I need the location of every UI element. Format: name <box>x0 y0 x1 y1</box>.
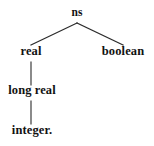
tree-edge-ns-boolean <box>77 23 123 45</box>
tree-edge-ns-real <box>31 23 77 45</box>
tree-node-boolean: boolean <box>102 45 144 58</box>
tree-node-real: real <box>21 45 42 58</box>
tree-node-integer: integer. <box>12 124 52 137</box>
tree-node-ns: ns <box>71 7 82 19</box>
tree-diagram: nsrealbooleanlong realinteger. <box>0 0 154 146</box>
tree-node-long-real: long real <box>8 84 56 97</box>
tree-edges <box>31 23 123 124</box>
